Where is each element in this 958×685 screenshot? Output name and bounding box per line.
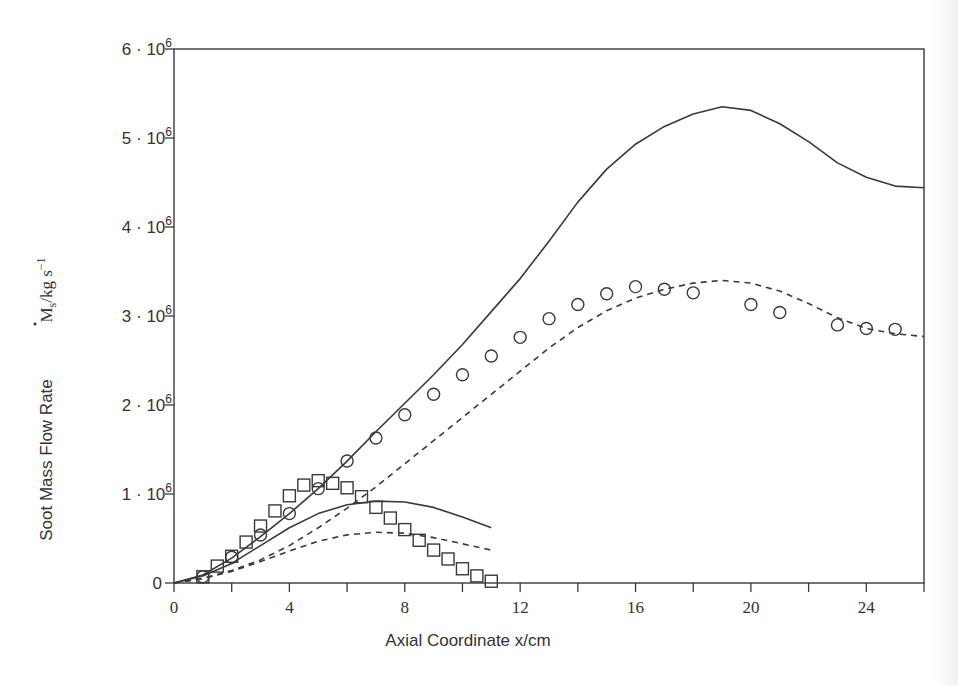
plot-border [174,49,924,583]
x-tick-label: 8 [401,598,410,617]
circle-marker [543,313,555,325]
square-marker [370,501,382,513]
y-tick-label: 2 · 106 [122,392,172,415]
circle-marker [774,306,786,318]
circle-marker [658,283,670,295]
square-marker [485,575,497,587]
circle-marker [428,388,440,400]
circle-marker [745,298,757,310]
y-tick-label: 6 · 106 [122,36,172,59]
series-line-2 [174,501,491,583]
circle-marker [687,287,699,299]
circle-marker [456,369,468,381]
page-edge-shadow [932,0,958,685]
square-marker [456,563,468,575]
y-units: /kg s [37,270,56,303]
square-marker [471,570,483,582]
svg-text:Ms/kg s−1: Ms/kg s−1 [34,257,59,322]
markers-layer [197,281,901,588]
x-tick-label: 24 [858,598,876,617]
y-tick-label: 0 [153,574,162,593]
y-axis-label: Soot Mass Flow Rate [37,379,56,541]
x-tick-label: 20 [742,598,759,617]
y-tick-label: 4 · 106 [122,214,172,237]
circle-marker [889,323,901,335]
circle-marker [399,409,411,421]
y-axis: 01 · 1062 · 1063 · 1064 · 1065 · 1066 · … [122,36,174,593]
circle-marker [514,331,526,343]
square-marker [283,490,295,502]
soot-mass-flow-chart: 04812162024 01 · 1062 · 1063 · 1064 · 10… [0,0,958,685]
y-tick-label: 3 · 106 [122,303,172,326]
circle-marker [370,432,382,444]
y-tick-label: 1 · 106 [122,481,172,504]
x-tick-label: 16 [627,598,644,617]
square-marker [428,544,440,556]
x-tick-label: 0 [170,598,179,617]
square-marker [341,482,353,494]
square-marker [442,553,454,565]
y-units-exp: −1 [34,257,48,270]
series-line-1 [174,280,924,583]
x-axis: 04812162024 [170,583,924,617]
square-marker [269,505,281,517]
x-tick-label: 4 [285,598,294,617]
dot-accent-icon [34,323,37,326]
x-axis-label: Axial Coordinate x/cm [385,631,550,650]
x-tick-label: 12 [512,598,529,617]
square-marker [384,512,396,524]
circle-marker [572,298,584,310]
series-line-0 [174,107,924,583]
circle-marker [601,288,613,300]
y-axis-units-label: Ms/kg s−1 [34,257,60,325]
circle-marker [831,319,843,331]
y-tick-label: 5 · 106 [122,125,172,148]
plot-frame [174,49,924,583]
y-symbol: M [37,307,56,322]
circle-marker [485,350,497,362]
circle-marker [630,281,642,293]
square-marker [298,479,310,491]
square-marker [240,536,252,548]
series-layer [174,107,924,583]
series-line-3 [174,532,491,583]
circle-marker [255,529,267,541]
y-axis-label-text: Soot Mass Flow Rate [37,379,56,541]
